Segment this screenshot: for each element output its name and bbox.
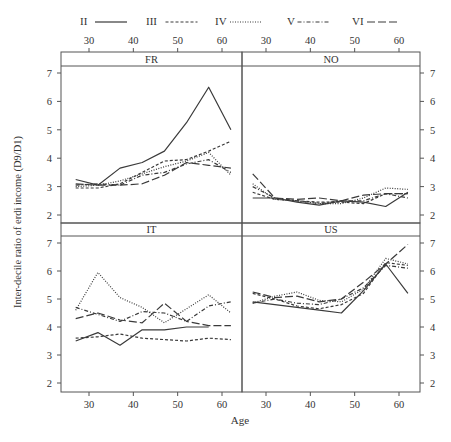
- x-tick-label-top: 40: [128, 35, 139, 46]
- x-tick-label-top: 60: [217, 35, 228, 46]
- panel-no: NO: [242, 52, 420, 223]
- x-tick-label-top: 50: [172, 35, 183, 46]
- y-tick-label-left: 2: [47, 378, 52, 389]
- x-tick-label-bottom: 50: [172, 399, 183, 410]
- panel-fr: FR: [61, 52, 242, 223]
- x-tick-label-top: 60: [394, 35, 405, 46]
- x-tick-label-bottom: 60: [217, 399, 228, 410]
- y-tick-label-right: 4: [430, 153, 436, 164]
- x-axis-label: Age: [231, 414, 249, 426]
- panel-us: US: [242, 223, 420, 392]
- series-ii-line: [76, 327, 209, 345]
- legend: IIIIIIVVVI: [80, 15, 399, 27]
- panel-strip-label: NO: [323, 54, 339, 65]
- x-tick-label-top: 50: [349, 35, 360, 46]
- x-tick-label-bottom: 60: [394, 399, 405, 410]
- series-vi-line: [253, 174, 408, 201]
- panels: FRNOITUS: [61, 52, 420, 392]
- y-tick-label-left: 4: [47, 153, 53, 164]
- legend-item-v: V: [287, 15, 330, 27]
- legend-label: III: [146, 15, 157, 27]
- y-tick-label-left: 5: [47, 125, 52, 136]
- trellis-line-chart: IIIIIIVVVI 30304040505060603030404050506…: [0, 0, 451, 442]
- y-tick-label-left: 7: [47, 68, 52, 79]
- y-tick-label-right: 2: [430, 378, 435, 389]
- x-tick-label-top: 30: [261, 35, 272, 46]
- series-v-line: [76, 160, 231, 186]
- series-v-line: [76, 302, 231, 322]
- y-tick-label-right: 7: [430, 238, 435, 249]
- panel-strip-label: FR: [145, 54, 158, 65]
- y-tick-label-right: 6: [430, 266, 435, 277]
- y-tick-label-right: 6: [430, 96, 435, 107]
- series-iii-line: [76, 334, 231, 341]
- y-tick-label-right: 3: [430, 182, 435, 193]
- y-tick-label-left: 5: [47, 294, 52, 305]
- panel-strip-label: IT: [147, 224, 157, 235]
- y-tick-label-left: 6: [47, 266, 52, 277]
- x-tick-label-top: 30: [84, 35, 95, 46]
- x-tick-label-bottom: 40: [305, 399, 316, 410]
- series-v-line: [253, 187, 408, 204]
- y-tick-label-right: 7: [430, 68, 435, 79]
- y-tick-label-right: 2: [430, 210, 435, 221]
- y-tick-label-right: 3: [430, 350, 435, 361]
- legend-item-ii: II: [80, 15, 127, 27]
- x-tick-label-bottom: 30: [84, 399, 95, 410]
- y-tick-label-right: 5: [430, 294, 435, 305]
- series-ii-line: [76, 87, 231, 185]
- y-tick-label-left: 2: [47, 210, 52, 221]
- x-tick-label-bottom: 30: [261, 399, 272, 410]
- series-iv-line: [76, 153, 231, 187]
- y-axis-label: Inter-decile ratio of erdi income (D9/D1…: [12, 135, 24, 308]
- series-vi-line: [76, 163, 231, 186]
- y-tick-label-right: 5: [430, 125, 435, 136]
- legend-label: IV: [215, 15, 227, 27]
- legend-label: II: [80, 15, 88, 27]
- legend-label: VI: [352, 15, 364, 27]
- series-v-line: [253, 265, 408, 304]
- y-tick-label-left: 4: [47, 322, 53, 333]
- x-tick-label-top: 40: [305, 35, 316, 46]
- series-ii-line: [253, 264, 408, 313]
- x-tick-label-bottom: 40: [128, 399, 139, 410]
- panel-it: IT: [61, 223, 242, 392]
- y-tick-label-left: 3: [47, 350, 52, 361]
- y-tick-label-right: 4: [430, 322, 436, 333]
- legend-item-iv: IV: [215, 15, 262, 27]
- y-tick-label-left: 7: [47, 238, 52, 249]
- legend-item-iii: III: [146, 15, 198, 27]
- series-vi-line: [253, 244, 408, 301]
- y-tick-label-left: 6: [47, 96, 52, 107]
- legend-item-vi: VI: [352, 15, 399, 27]
- y-tick-label-left: 3: [47, 182, 52, 193]
- panel-strip-label: US: [324, 224, 338, 235]
- legend-label: V: [287, 15, 295, 27]
- x-tick-label-bottom: 50: [349, 399, 360, 410]
